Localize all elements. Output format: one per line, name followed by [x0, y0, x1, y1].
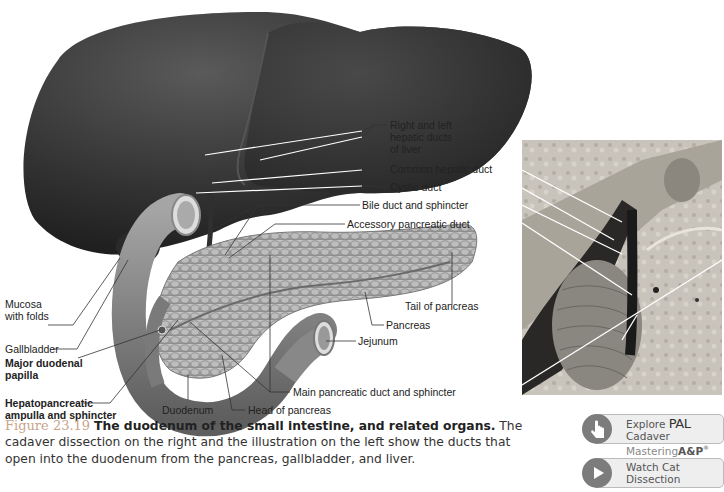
label-line: Mucosa — [5, 298, 49, 310]
play-icon — [582, 458, 612, 488]
ap-text: A&P — [678, 445, 703, 457]
mastering-text: Mastering — [626, 445, 678, 457]
figure-caption: Figure 23.19 The duodenum of the small i… — [5, 418, 585, 467]
label-line: with folds — [5, 310, 49, 322]
label-bile-duct: Bile duct and sphincter — [362, 199, 468, 211]
label-jejunum: Jejunum — [358, 335, 398, 347]
label-line: Right and left — [390, 119, 452, 131]
label-cystic-duct: Cystic duct — [390, 181, 441, 193]
label-common-hepatic-duct: Common hepatic duct — [390, 163, 492, 175]
label-pancreas: Pancreas — [386, 319, 430, 331]
cadaver-dissection-photo — [522, 140, 722, 395]
label-line: of liver — [390, 143, 452, 155]
cadaver-text: Cadaver — [626, 430, 670, 442]
label-main-pancreatic-duct: Main pancreatic duct and sphincter — [293, 386, 456, 398]
caption-line-2: cadaver dissection on the right and the … — [5, 435, 510, 449]
explore-text: Explore — [626, 418, 665, 430]
caption-text-start: The — [499, 419, 522, 433]
pal-logo: PAL — [669, 416, 691, 431]
watch-cat-dissection-button[interactable]: Watch Cat Dissection — [595, 458, 724, 488]
label-gallbladder: Gallbladder — [5, 343, 59, 355]
label-accessory-pancreatic-duct: Accessory pancreatic duct — [347, 218, 470, 230]
explore-pal-cadaver-button[interactable]: Explore PAL Cadaver MasteringA&P® — [595, 414, 724, 444]
label-line: hepatic ducts — [390, 131, 452, 143]
figure-number: Figure 23.19 — [5, 418, 90, 433]
label-line: Major duodenal — [5, 357, 83, 369]
hand-pointer-icon — [582, 414, 612, 444]
button-text: Explore PAL Cadaver MasteringA&P® — [626, 418, 723, 457]
label-mucosa: Mucosa with folds — [5, 298, 49, 322]
label-line: Hepatopancreatic — [5, 397, 116, 409]
label-major-duodenal-papilla: Major duodenal papilla — [5, 357, 83, 381]
label-tail-of-pancreas: Tail of pancreas — [405, 300, 479, 312]
label-head-of-pancreas: Head of pancreas — [248, 404, 331, 416]
label-line: papilla — [5, 369, 83, 381]
caption-line-3: open into the duodenum from the pancreas… — [5, 452, 415, 466]
figure-title: The duodenum of the small intestine, and… — [94, 419, 495, 433]
label-right-left-hepatic-ducts: Right and left hepatic ducts of liver — [390, 119, 452, 155]
watch-cat-label: Watch Cat Dissection — [626, 461, 723, 485]
label-duodenum: Duodenum — [162, 404, 213, 416]
registered-mark: ® — [703, 444, 709, 451]
